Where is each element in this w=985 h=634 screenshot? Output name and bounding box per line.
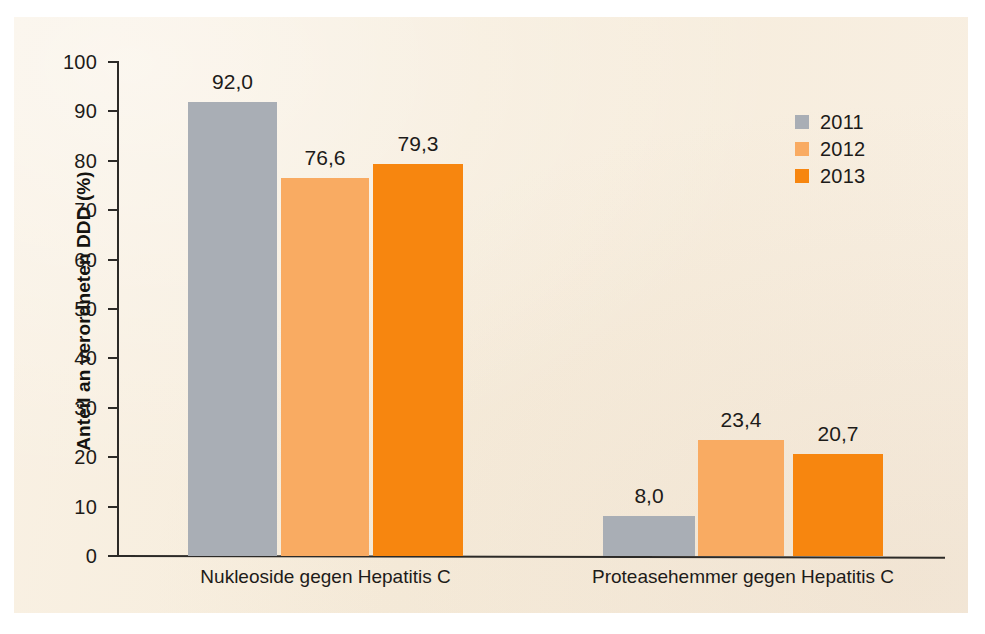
legend-item[interactable]: 2013 <box>795 162 865 189</box>
bar[interactable] <box>188 102 277 556</box>
y-axis-tick-label: 40 <box>37 348 97 368</box>
y-axis-tick <box>108 357 117 359</box>
y-axis-tick-label: 60 <box>37 250 97 270</box>
y-axis-tick-label: 100 <box>37 52 97 72</box>
y-axis-tick <box>108 110 117 112</box>
y-axis-tick <box>108 555 117 557</box>
y-axis-tick <box>108 61 117 63</box>
y-axis-tick <box>108 160 117 162</box>
plot-area: Anteil an verordneten DDD (%) 1009080706… <box>0 0 985 634</box>
legend-item[interactable]: 2012 <box>795 135 865 162</box>
y-axis-tick-label: 50 <box>37 299 97 319</box>
bar[interactable] <box>793 454 883 556</box>
y-axis-tick <box>108 308 117 310</box>
bar-value-label: 79,3 <box>373 133 463 154</box>
legend-item[interactable]: 2011 <box>795 108 865 135</box>
y-axis-line <box>117 61 119 557</box>
bar-value-label: 23,4 <box>698 409 784 430</box>
y-axis-tick-label: 20 <box>37 447 97 467</box>
bar[interactable] <box>373 164 463 556</box>
bar-value-label: 76,6 <box>281 147 369 168</box>
legend-label: 2013 <box>820 166 865 186</box>
legend-swatch-icon <box>795 115 809 129</box>
chart-figure: Anteil an verordneten DDD (%) 1009080706… <box>0 0 985 634</box>
legend: 201120122013 <box>795 108 865 189</box>
bar-value-label: 92,0 <box>188 71 277 92</box>
legend-swatch-icon <box>795 169 809 183</box>
y-axis-tick-label: 10 <box>37 497 97 517</box>
legend-label: 2011 <box>820 112 864 132</box>
bar-value-label: 20,7 <box>793 423 883 444</box>
legend-swatch-icon <box>795 142 809 156</box>
y-axis-tick-label: 70 <box>37 200 97 220</box>
y-axis-tick <box>108 209 117 211</box>
y-axis-tick-label: 30 <box>37 398 97 418</box>
y-axis-tick <box>108 259 117 261</box>
legend-label: 2012 <box>820 139 865 159</box>
y-axis-tick-label: 80 <box>37 151 97 171</box>
bar[interactable] <box>698 440 784 556</box>
bar-value-label: 8,0 <box>603 485 695 506</box>
x-axis-category-label: Proteasehemmer gegen Hepatitis C <box>493 567 985 586</box>
y-axis-tick <box>108 456 117 458</box>
y-axis-tick-label: 0 <box>37 546 97 566</box>
bar[interactable] <box>603 516 695 556</box>
y-axis-tick-label: 90 <box>37 101 97 121</box>
y-axis-tick <box>108 407 117 409</box>
y-axis-tick <box>108 506 117 508</box>
bar[interactable] <box>281 178 369 556</box>
